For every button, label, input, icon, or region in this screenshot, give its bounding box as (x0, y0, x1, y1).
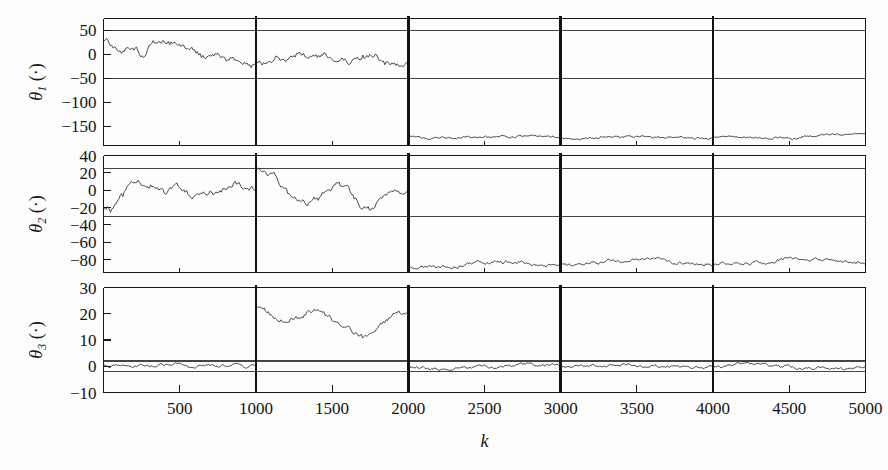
x-tick-label: 3500 (620, 399, 654, 418)
x-axis-title: k (481, 431, 490, 451)
x-tick-label: 4500 (772, 399, 806, 418)
y-tick-label: −100 (61, 93, 96, 112)
x-tick-label: 2000 (391, 399, 425, 418)
x-tick-label: 1500 (315, 399, 349, 418)
y-tick-label: −40 (70, 216, 97, 235)
y-tick-label: 0 (88, 45, 97, 64)
figure-container: 500−50−100−150θ1 (·)40200−20−40−60−80θ2 … (0, 0, 888, 470)
x-tick-label: 1000 (239, 399, 273, 418)
x-tick-label: 5000 (849, 399, 883, 418)
svg-text:θ1 (·): θ1 (·) (26, 63, 49, 100)
y-tick-label: 0 (88, 181, 97, 200)
y-tick-label: 20 (80, 305, 97, 324)
y-tick-label: −80 (70, 251, 97, 270)
data-trace-segment (408, 362, 865, 370)
multi-panel-line-chart: 500−50−100−150θ1 (·)40200−20−40−60−80θ2 … (0, 0, 888, 470)
data-trace-segment (408, 133, 865, 140)
svg-text:θ2 (·): θ2 (·) (26, 195, 49, 232)
y-tick-label: −60 (70, 233, 97, 252)
data-trace-segment (104, 363, 256, 369)
y-tick-label: 30 (80, 279, 97, 298)
y-tick-label: −10 (70, 384, 97, 403)
svg-text:θ3 (·): θ3 (·) (26, 321, 49, 358)
x-tick-label: 4000 (696, 399, 730, 418)
y-tick-label: −20 (70, 199, 97, 218)
y-tick-label: −50 (70, 69, 97, 88)
y-axis-title-theta2: θ2 (·) (26, 195, 49, 232)
y-tick-label: 20 (80, 164, 97, 183)
data-trace-segment (256, 168, 408, 210)
y-tick-label: −150 (61, 117, 96, 136)
y-axis-title-theta1: θ1 (·) (26, 63, 49, 100)
x-tick-label: 3000 (544, 399, 578, 418)
y-tick-label: 50 (80, 21, 97, 40)
panel-theta2: 40200−20−40−60−80θ2 (·) (26, 147, 866, 273)
trace-group-theta2 (104, 168, 866, 269)
y-tick-label: 0 (88, 357, 97, 376)
panel-theta1: 500−50−100−150θ1 (·) (26, 16, 866, 146)
y-tick-label: 10 (80, 331, 97, 350)
data-trace-segment (408, 257, 865, 269)
panel-theta3: 3020100−10500100015002000250030003500400… (26, 279, 883, 418)
x-tick-label: 2500 (468, 399, 502, 418)
y-tick-label: 40 (80, 147, 97, 166)
trace-group-theta1 (104, 39, 866, 140)
data-trace-segment (104, 180, 256, 212)
x-tick-label: 500 (167, 399, 193, 418)
data-trace-segment (256, 307, 408, 338)
y-axis-title-theta3: θ3 (·) (26, 321, 49, 358)
